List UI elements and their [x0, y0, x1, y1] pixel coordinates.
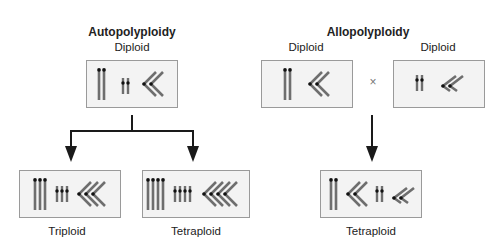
- arrow-head-tetraploid: [187, 146, 199, 162]
- allo-arrow-head: [366, 146, 378, 162]
- auto-tetraploid-chromosomes: [146, 178, 237, 210]
- triploid-chromosomes: [33, 178, 105, 210]
- diagram-graphics: [0, 0, 498, 245]
- arrow-head-triploid: [65, 146, 77, 162]
- branch-arrows: [70, 115, 193, 148]
- allo-diploid-1-chromosomes: [283, 68, 329, 100]
- allo-tetraploid-chromosomes: [329, 178, 414, 210]
- auto-diploid-chromosomes: [97, 68, 163, 100]
- allo-diploid-2-chromosomes: [415, 75, 463, 91]
